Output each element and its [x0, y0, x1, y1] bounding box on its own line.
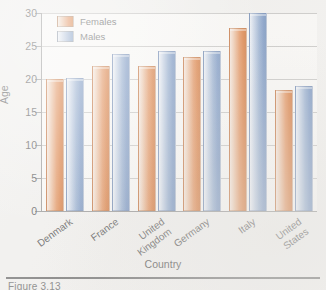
bar-top-highlight [276, 91, 292, 93]
y-axis-title: Age [0, 85, 10, 104]
bar-females [229, 28, 247, 211]
bar-top-highlight [204, 52, 220, 54]
chart-legend: FemalesMales [57, 16, 116, 42]
bar-group [138, 13, 176, 211]
bar-top-highlight [47, 80, 63, 82]
legend-item: Males [57, 31, 116, 42]
bar-group [46, 13, 84, 211]
x-axis-tick-label: United States [219, 216, 310, 290]
bar-females [183, 57, 201, 211]
caption-divider [6, 277, 320, 279]
caption-text: Figure 3.13 [8, 281, 61, 290]
y-axis-tick-label: 20 [25, 73, 37, 85]
legend-swatch-male [57, 31, 74, 42]
bar-top-highlight [159, 52, 175, 54]
bar-males [158, 51, 176, 211]
bar-males [249, 13, 267, 211]
y-axis-tick-label: 25 [25, 40, 37, 52]
bar-males [112, 54, 130, 211]
bar-group [92, 13, 130, 211]
bar-group [275, 13, 313, 211]
y-axis-tick-label: 30 [25, 7, 37, 19]
bar-females [275, 90, 293, 211]
bar-females [46, 79, 64, 211]
y-axis-tick-label: 15 [25, 106, 37, 118]
legend-label: Females [80, 16, 116, 27]
bar-group [183, 13, 221, 211]
bar-males [66, 78, 84, 211]
bar-females [92, 66, 110, 211]
bar-chart-figure: Age 051015202530 DenmarkFranceUnited Kin… [0, 0, 326, 290]
legend-swatch-female [57, 16, 74, 27]
bar-top-highlight [230, 29, 246, 31]
bar-top-highlight [139, 67, 155, 69]
chart-canvas: Age 051015202530 DenmarkFranceUnited Kin… [0, 0, 326, 290]
x-axis-title: Country [0, 258, 326, 270]
bar-group [229, 13, 267, 211]
bar-top-highlight [113, 55, 129, 57]
bar-top-highlight [67, 79, 83, 81]
y-axis-tick-label: 10 [25, 139, 37, 151]
legend-item: Females [57, 16, 116, 27]
bar-top-highlight [93, 67, 109, 69]
bar-top-highlight [184, 58, 200, 60]
bar-females [138, 66, 156, 211]
bar-males [295, 86, 313, 211]
plot-area [41, 13, 317, 212]
bar-top-highlight [250, 14, 266, 16]
legend-label: Males [80, 31, 105, 42]
bar-top-highlight [296, 87, 312, 89]
y-axis-tick-label: 0 [31, 205, 37, 217]
bar-males [203, 51, 221, 211]
y-axis-tick-label: 5 [31, 172, 37, 184]
